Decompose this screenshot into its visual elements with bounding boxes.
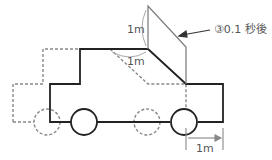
displacement-1m-label: 1m — [196, 142, 214, 155]
car-motion-diagram: 1m 1m 1m ③0.1 秒後 — [0, 0, 272, 160]
tilted-board — [148, 6, 186, 84]
annotation-arrow — [179, 30, 210, 37]
time-annotation-label: ③0.1 秒後 — [214, 22, 267, 36]
vertical-1m-label: 1m — [127, 23, 145, 36]
current-front-wheel — [171, 109, 197, 135]
diagonal-1m-label: 1m — [127, 55, 145, 68]
current-rear-wheel — [71, 109, 97, 135]
